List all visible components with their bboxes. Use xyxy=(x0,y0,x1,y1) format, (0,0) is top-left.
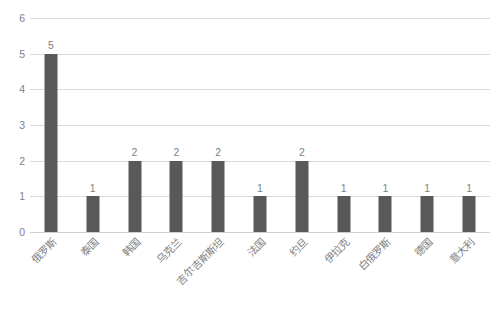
bar[interactable] xyxy=(337,196,350,232)
bar-slot: 5 xyxy=(30,18,72,232)
bar[interactable] xyxy=(86,196,99,232)
bar-value-label: 2 xyxy=(173,147,179,158)
y-axis-tick-label: 2 xyxy=(0,155,25,166)
bar-value-label: 1 xyxy=(383,183,389,194)
bar[interactable] xyxy=(463,196,476,232)
bar[interactable] xyxy=(421,196,434,232)
x-axis-tick-label: 乌克兰 xyxy=(155,236,184,265)
x-axis-tick-label: 约旦 xyxy=(287,236,309,258)
bar-slot: 2 xyxy=(114,18,156,232)
bar[interactable] xyxy=(212,161,225,232)
bar-slot: 1 xyxy=(406,18,448,232)
bar-value-label: 5 xyxy=(48,40,54,51)
bar[interactable] xyxy=(170,161,183,232)
x-axis-tick-label: 俄罗斯 xyxy=(29,236,58,265)
bar-value-label: 1 xyxy=(341,183,347,194)
y-axis-tick-label: 6 xyxy=(0,13,25,24)
x-axis-tick-label: 德国 xyxy=(413,236,435,258)
bar-value-label: 2 xyxy=(132,147,138,158)
bar[interactable] xyxy=(295,161,308,232)
plot-area: 0123456 51222121111 xyxy=(30,18,490,232)
x-axis-tick-label: 韩国 xyxy=(120,236,142,258)
gridline xyxy=(30,232,490,233)
bar-value-label: 2 xyxy=(299,147,305,158)
y-axis-tick-label: 1 xyxy=(0,191,25,202)
bar-value-label: 1 xyxy=(257,183,263,194)
x-axis-tick-label: 伊拉克 xyxy=(322,236,351,265)
bar-value-label: 2 xyxy=(215,147,221,158)
bar-slot: 2 xyxy=(155,18,197,232)
bar[interactable] xyxy=(128,161,141,232)
y-axis-tick-label: 4 xyxy=(0,84,25,95)
bar-slot: 1 xyxy=(365,18,407,232)
bar-slot: 1 xyxy=(72,18,114,232)
y-axis-tick-label: 0 xyxy=(0,227,25,238)
bar-value-label: 1 xyxy=(90,183,96,194)
bar[interactable] xyxy=(44,54,57,232)
x-axis-tick-label: 法国 xyxy=(246,236,268,258)
x-axis-tick-label: 白俄罗斯 xyxy=(357,236,394,273)
bar[interactable] xyxy=(253,196,266,232)
bar[interactable] xyxy=(379,196,392,232)
bar-slot: 1 xyxy=(239,18,281,232)
bar-slot: 2 xyxy=(197,18,239,232)
bar-slot: 2 xyxy=(281,18,323,232)
bar-slot: 1 xyxy=(448,18,490,232)
x-axis-tick-label: 泰国 xyxy=(78,236,100,258)
y-axis-tick-label: 3 xyxy=(0,120,25,131)
bar-chart: 0123456 51222121111 俄罗斯泰国韩国乌克兰吉尔吉斯斯坦法国约旦… xyxy=(0,0,499,309)
bar-value-label: 1 xyxy=(466,183,472,194)
y-axis-tick-label: 5 xyxy=(0,48,25,59)
x-axis-tick-label: 意大利 xyxy=(447,236,476,265)
bar-slot: 1 xyxy=(323,18,365,232)
bar-value-label: 1 xyxy=(424,183,430,194)
